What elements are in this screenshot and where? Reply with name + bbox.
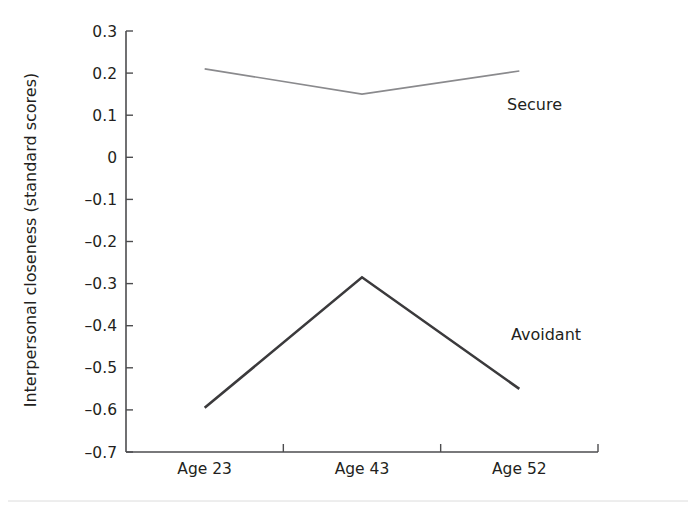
series-label-secure: Secure xyxy=(507,95,562,114)
y-tick-label: 0.3 xyxy=(92,23,117,41)
y-tick-label: 0 xyxy=(107,149,117,167)
chart-canvas: Interpersonal closeness (standard scores… xyxy=(0,0,696,508)
x-tick-label: Age 43 xyxy=(335,460,390,478)
x-tick-label: Age 52 xyxy=(492,460,547,478)
y-tick-label: 0.2 xyxy=(92,65,117,83)
y-tick-label: 0.1 xyxy=(92,107,117,125)
series-label-avoidant: Avoidant xyxy=(511,325,581,344)
y-tick-label: –0.1 xyxy=(85,191,117,209)
y-tick-label: –0.3 xyxy=(85,275,117,293)
y-tick-label: –0.4 xyxy=(85,317,117,335)
y-tick-label: –0.2 xyxy=(85,233,117,251)
y-tick-label: –0.7 xyxy=(85,444,117,462)
y-tick-label: –0.5 xyxy=(85,359,117,377)
y-tick-label: –0.6 xyxy=(85,401,117,419)
y-axis-title: Interpersonal closeness (standard scores… xyxy=(21,73,40,408)
line-chart-figure: Interpersonal closeness (standard scores… xyxy=(0,0,696,508)
x-tick-label: Age 23 xyxy=(177,460,232,478)
